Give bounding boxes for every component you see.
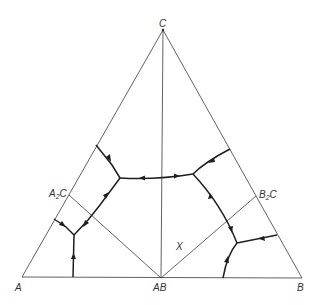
label-b2c: B2C — [259, 189, 278, 201]
label-a: A — [14, 282, 22, 293]
arrow-icon — [71, 253, 76, 259]
label-ab: AB — [152, 282, 167, 293]
label-x: X — [175, 241, 183, 252]
apex-dot — [162, 29, 164, 31]
join-a2c-ab — [69, 195, 161, 278]
arrow-icon — [103, 192, 109, 199]
arrow-icon — [258, 236, 265, 241]
boundary-e2-e4 — [193, 174, 237, 243]
join-b2c-ab — [161, 196, 256, 278]
boundary-edge-e3 — [54, 219, 74, 235]
label-a2c: A2C — [48, 188, 68, 200]
boundary-central — [120, 174, 193, 179]
boundary-edge-e4 — [237, 235, 277, 243]
label-c: C — [159, 18, 167, 29]
boundary-upper-left — [96, 145, 120, 178]
arrow-icon — [139, 176, 145, 181]
arrow-icon — [59, 221, 66, 227]
boundary-e1-e3 — [74, 178, 120, 235]
ternary-diagram: C A B AB X A2C B2C — [0, 0, 321, 305]
join-c-ab — [161, 30, 163, 278]
arrow-icon — [174, 174, 180, 179]
label-b: B — [297, 282, 304, 293]
